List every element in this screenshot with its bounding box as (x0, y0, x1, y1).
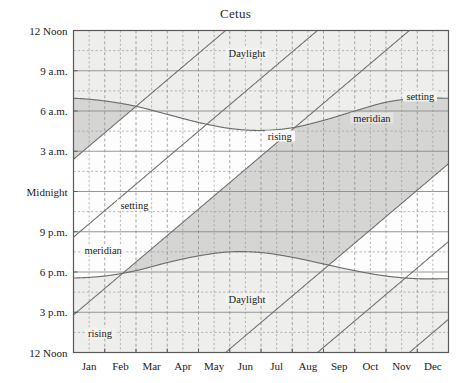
y-axis-tick-label: Midnight (27, 186, 68, 198)
x-axis-tick-label: Aug (298, 360, 317, 372)
chart-annotation-setting-left: setting (117, 199, 151, 210)
y-axis-tick-label: 12 Noon (29, 347, 67, 359)
y-axis-tick-label: 3 a.m. (40, 145, 67, 157)
chart-annotation-rising-middle: rising (265, 131, 295, 142)
y-axis-tick-label: 6 p.m. (40, 266, 68, 278)
chart-annotation-meridian-right: meridian (350, 113, 393, 124)
chart-annotation-daylight-top: Daylight (226, 47, 269, 58)
x-axis-tick-label: Nov (392, 360, 411, 372)
y-axis-tick-label: 9 a.m. (40, 65, 67, 77)
x-axis-tick-label: Jul (270, 360, 283, 372)
x-axis-tick-label: Sep (331, 360, 348, 372)
x-axis-tick-label: Feb (112, 360, 129, 372)
chart-annotation-setting-right: setting (403, 90, 437, 101)
x-axis-tick-label: Dec (424, 360, 442, 372)
chart-annotation-daylight-bottom: Daylight (226, 293, 269, 304)
chart-annotation-rising-bottom: rising (85, 328, 115, 339)
y-axis-tick-label: 9 p.m. (40, 226, 68, 238)
chart-root: Cetus 12 Noon9 a.m.6 a.m.3 a.m.Midnight9… (0, 0, 471, 383)
x-axis-tick-label: May (204, 360, 224, 372)
x-axis-tick-label: Apr (174, 360, 191, 372)
x-axis-tick-label: Mar (142, 360, 160, 372)
x-axis-tick-label: Oct (362, 360, 378, 372)
x-axis-tick-label: Jun (238, 360, 253, 372)
y-axis-tick-label: 3 p.m. (40, 306, 68, 318)
chart-annotation-meridian-left: meridian (82, 244, 125, 255)
x-axis-tick-label: Jan (82, 360, 97, 372)
y-axis-tick-label: 12 Noon (29, 25, 67, 37)
y-axis-tick-label: 6 a.m. (40, 105, 67, 117)
